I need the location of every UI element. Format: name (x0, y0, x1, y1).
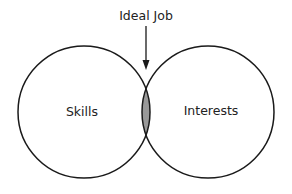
arrow-head-icon (143, 60, 150, 70)
skills-label: Skills (66, 104, 98, 119)
interests-label: Interests (184, 103, 239, 118)
ideal-job-label: Ideal Job (119, 8, 173, 23)
venn-diagram: Ideal Job Skills Interests (0, 0, 292, 194)
